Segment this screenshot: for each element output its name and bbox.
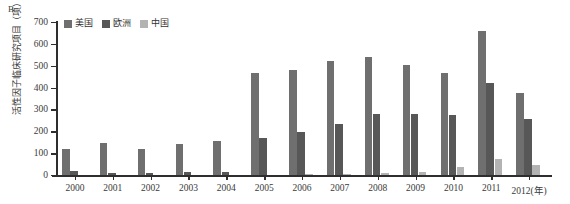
y-tick-label: 200 bbox=[4, 126, 48, 136]
bar-欧洲-2011 bbox=[486, 83, 494, 175]
x-tick bbox=[151, 175, 152, 180]
x-tick bbox=[340, 175, 341, 180]
x-tick-label: 2012(年) bbox=[511, 183, 546, 197]
x-tick-label: 2010 bbox=[444, 183, 463, 193]
x-tick bbox=[302, 175, 303, 180]
bars-container bbox=[56, 22, 548, 175]
y-tick bbox=[51, 22, 56, 23]
bar-美国-2008 bbox=[365, 57, 373, 175]
x-tick bbox=[75, 175, 76, 180]
x-tick-label: 2000 bbox=[65, 183, 84, 193]
x-tick-label: 2008 bbox=[368, 183, 387, 193]
x-tick-label: 2005 bbox=[255, 183, 274, 193]
bar-美国-2011 bbox=[478, 31, 486, 175]
x-tick bbox=[491, 175, 492, 180]
x-tick bbox=[264, 175, 265, 180]
bar-美国-2001 bbox=[100, 143, 108, 175]
figure-panel-b: B 活性因子临床研究项目（项） 010020030040050060070020… bbox=[0, 0, 570, 204]
bar-欧洲-2005 bbox=[259, 138, 267, 175]
y-tick bbox=[51, 153, 56, 154]
x-tick-label: 2009 bbox=[406, 183, 425, 193]
bar-中国-2011 bbox=[495, 159, 503, 175]
bar-欧洲-2008 bbox=[373, 114, 381, 175]
legend-item-美国: 美国 bbox=[64, 19, 93, 28]
legend-label: 美国 bbox=[75, 19, 93, 28]
legend-swatch-icon bbox=[64, 20, 72, 28]
y-tick bbox=[51, 109, 56, 110]
x-tick-label: 2006 bbox=[293, 183, 312, 193]
legend-swatch-icon bbox=[102, 20, 110, 28]
x-tick-label: 2004 bbox=[217, 183, 236, 193]
plot-area: 0100200300400500600700200020012002200320… bbox=[56, 22, 548, 175]
y-tick-label: 0 bbox=[4, 170, 48, 180]
bar-美国-2009 bbox=[403, 65, 411, 175]
bar-美国-2002 bbox=[138, 149, 146, 175]
legend-label: 欧洲 bbox=[113, 19, 131, 28]
y-tick-label: 500 bbox=[4, 61, 48, 71]
bar-欧洲-2004 bbox=[222, 172, 230, 175]
bar-欧洲-2002 bbox=[146, 173, 154, 175]
legend-label: 中国 bbox=[151, 19, 169, 28]
bar-欧洲-2000 bbox=[70, 171, 78, 175]
y-tick-label: 300 bbox=[4, 104, 48, 114]
bar-中国-2006 bbox=[305, 174, 313, 175]
x-tick bbox=[113, 175, 114, 180]
y-tick bbox=[51, 88, 56, 89]
x-tick bbox=[529, 175, 530, 180]
y-tick-label: 600 bbox=[4, 39, 48, 49]
bar-欧洲-2003 bbox=[184, 172, 192, 175]
bar-中国-2008 bbox=[381, 173, 389, 175]
bar-中国-2009 bbox=[419, 172, 427, 175]
x-tick bbox=[416, 175, 417, 180]
bar-美国-2007 bbox=[327, 61, 335, 175]
y-tick-label: 700 bbox=[4, 17, 48, 27]
bar-中国-2010 bbox=[457, 167, 465, 175]
x-tick-label: 2002 bbox=[141, 183, 160, 193]
bar-中国-2012 bbox=[532, 165, 540, 175]
x-tick bbox=[226, 175, 227, 180]
bar-美国-2006 bbox=[289, 70, 297, 175]
x-tick-label: 2003 bbox=[179, 183, 198, 193]
x-tick bbox=[453, 175, 454, 180]
y-tick-label: 100 bbox=[4, 148, 48, 158]
legend-swatch-icon bbox=[140, 20, 148, 28]
x-tick bbox=[188, 175, 189, 180]
x-tick bbox=[378, 175, 379, 180]
legend-item-欧洲: 欧洲 bbox=[102, 19, 131, 28]
bar-欧洲-2001 bbox=[108, 173, 116, 175]
y-tick bbox=[51, 66, 56, 67]
bar-美国-2005 bbox=[251, 73, 259, 175]
legend-item-中国: 中国 bbox=[140, 19, 169, 28]
bar-美国-2010 bbox=[441, 73, 449, 175]
y-tick bbox=[51, 44, 56, 45]
x-tick-label: 2001 bbox=[103, 183, 122, 193]
bar-欧洲-2007 bbox=[335, 124, 343, 175]
bar-欧洲-2010 bbox=[449, 115, 457, 175]
bar-中国-2007 bbox=[343, 174, 351, 175]
bar-美国-2012 bbox=[516, 93, 524, 175]
bar-美国-2004 bbox=[213, 141, 221, 175]
bar-欧洲-2006 bbox=[297, 132, 305, 175]
x-tick-label: 2011 bbox=[482, 183, 501, 193]
legend: 美国欧洲中国 bbox=[64, 19, 169, 28]
bar-欧洲-2012 bbox=[524, 119, 532, 175]
bar-美国-2003 bbox=[176, 144, 184, 175]
y-tick-label: 400 bbox=[4, 83, 48, 93]
y-tick bbox=[51, 131, 56, 132]
x-tick-label: 2007 bbox=[330, 183, 349, 193]
y-tick bbox=[51, 175, 56, 176]
bar-美国-2000 bbox=[62, 149, 70, 175]
bar-欧洲-2009 bbox=[411, 114, 419, 175]
